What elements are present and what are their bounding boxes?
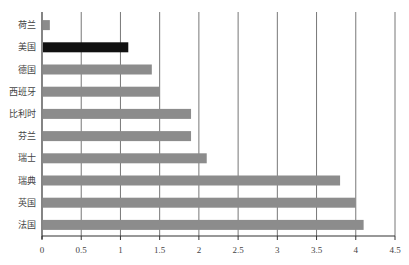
x-tick-label: 1 — [118, 245, 123, 255]
bar — [43, 65, 152, 75]
category-label: 瑞典 — [18, 175, 36, 186]
bar — [43, 131, 191, 141]
category-label: 西班牙 — [9, 86, 36, 97]
bar — [43, 109, 191, 119]
bar — [43, 198, 356, 208]
x-tick-label: 4 — [354, 245, 359, 255]
bar — [43, 20, 50, 30]
category-label: 比利时 — [9, 108, 36, 119]
x-tick-label: 4.5 — [389, 245, 401, 255]
bar — [43, 176, 340, 186]
x-tick-label: 3.5 — [311, 245, 323, 255]
x-tick-label: 1.5 — [154, 245, 166, 255]
x-tick-label: 2 — [197, 245, 202, 255]
bar — [43, 42, 128, 52]
x-tick-label: 0 — [40, 245, 45, 255]
category-label: 美国 — [18, 41, 36, 52]
x-tick-label: 3 — [275, 245, 280, 255]
category-label: 瑞士 — [18, 152, 36, 163]
category-label: 德国 — [18, 64, 36, 75]
bar — [43, 87, 160, 97]
x-tick-label: 2.5 — [232, 245, 244, 255]
category-label: 荷兰 — [18, 19, 36, 30]
category-label: 芬兰 — [18, 130, 36, 141]
x-tick-label: 0.5 — [76, 245, 88, 255]
category-label: 英国 — [18, 197, 36, 208]
category-labels: 荷兰美国德国西班牙比利时芬兰瑞士瑞典英国法国 — [9, 19, 36, 230]
bar — [43, 220, 364, 230]
bar-chart: 荷兰美国德国西班牙比利时芬兰瑞士瑞典英国法国 00.511.522.533.54… — [0, 0, 409, 265]
bars — [43, 20, 364, 230]
category-label: 法国 — [18, 219, 36, 230]
bar — [43, 153, 207, 163]
